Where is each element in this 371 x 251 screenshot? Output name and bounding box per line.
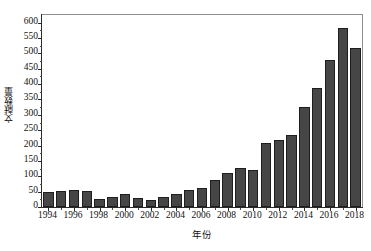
- bar: [94, 199, 104, 207]
- bar: [325, 60, 335, 207]
- x-axis-tick-label: 1998: [89, 211, 108, 221]
- y-axis-tick-mark: [38, 69, 42, 70]
- x-axis-tick-label: 2004: [166, 211, 185, 221]
- x-axis-tick-labels: 1994199619982000200220042006200820102012…: [41, 209, 363, 225]
- x-axis-tick-label: 2008: [217, 211, 236, 221]
- bar: [158, 197, 168, 207]
- bar: [197, 188, 207, 207]
- y-axis-tick-label: 100: [24, 171, 38, 181]
- bar: [120, 194, 130, 207]
- y-axis-tick-label: 300: [24, 109, 38, 119]
- bar: [69, 190, 79, 207]
- y-axis-tick-label: 550: [24, 32, 38, 42]
- y-axis-tick-label: 350: [24, 94, 38, 104]
- plot-area: [41, 14, 363, 208]
- y-axis-tick-mark: [38, 84, 42, 85]
- y-axis-tick-mark: [38, 146, 42, 147]
- bar: [235, 168, 245, 207]
- y-axis-minor-tick-mark: [40, 30, 43, 31]
- y-axis-minor-tick-mark: [40, 199, 43, 200]
- bar: [338, 28, 348, 207]
- y-axis-tick-mark: [38, 38, 42, 39]
- y-axis-tick-mark: [38, 192, 42, 193]
- y-axis-minor-tick-mark: [40, 61, 43, 62]
- bar: [274, 140, 284, 207]
- x-axis-tick-label: 2002: [140, 211, 159, 221]
- x-axis-title: 年份: [41, 227, 363, 241]
- bar: [222, 173, 232, 207]
- y-axis-tick-label: 250: [24, 124, 38, 134]
- x-axis-tick-label: 2006: [192, 211, 211, 221]
- bar: [299, 107, 309, 207]
- y-axis-tick-label: 500: [24, 48, 38, 58]
- y-axis-minor-tick-mark: [40, 169, 43, 170]
- bar: [184, 190, 194, 207]
- y-axis-minor-tick-mark: [40, 138, 43, 139]
- bar: [56, 191, 66, 207]
- y-axis-tick-label: 400: [24, 78, 38, 88]
- y-axis-minor-tick-mark: [40, 153, 43, 154]
- y-axis-tick-mark: [38, 23, 42, 24]
- bar: [350, 48, 360, 207]
- y-axis-tick-mark: [38, 53, 42, 54]
- bar: [171, 194, 181, 207]
- bar: [146, 200, 156, 207]
- x-axis-tick-label: 2012: [268, 211, 287, 221]
- bar: [210, 180, 220, 207]
- y-axis-tick-label: 600: [24, 17, 38, 27]
- x-axis-tick-label: 1994: [38, 211, 57, 221]
- y-axis-minor-tick-mark: [40, 123, 43, 124]
- bar: [312, 88, 322, 207]
- bar: [286, 135, 296, 207]
- y-axis-minor-tick-mark: [40, 184, 43, 185]
- x-axis-tick-label: 2014: [294, 211, 313, 221]
- x-axis-tick-label: 2010: [243, 211, 262, 221]
- bar: [133, 198, 143, 207]
- y-axis-minor-tick-mark: [40, 107, 43, 108]
- y-axis-tick-labels: 050100150200250300350400450500550600: [14, 14, 40, 208]
- y-axis-tick-mark: [38, 161, 42, 162]
- x-axis-tick-label: 1996: [64, 211, 83, 221]
- bar: [261, 143, 271, 207]
- y-axis-minor-tick-mark: [40, 92, 43, 93]
- bar: [248, 170, 258, 207]
- y-axis-minor-tick-mark: [40, 76, 43, 77]
- bar: [82, 191, 92, 207]
- bar-series: [42, 15, 362, 207]
- bar: [43, 192, 53, 207]
- y-axis-tick-mark: [38, 99, 42, 100]
- y-axis-tick-label: 200: [24, 140, 38, 150]
- y-axis-tick-mark: [38, 130, 42, 131]
- y-axis-tick-mark: [38, 207, 42, 208]
- bar: [107, 197, 117, 207]
- y-axis-minor-tick-mark: [40, 46, 43, 47]
- y-axis-title-text: 文献数量: [4, 87, 13, 123]
- y-axis-tick-mark: [38, 115, 42, 116]
- x-axis-tick-label: 2016: [320, 211, 339, 221]
- x-axis-tick-label: 2000: [115, 211, 134, 221]
- bar-chart: 文献数量 05010015020025030035040045050055060…: [0, 0, 371, 251]
- y-axis-tick-label: 50: [29, 186, 39, 196]
- y-axis-tick-label: 150: [24, 155, 38, 165]
- x-axis-tick-label: 2018: [345, 211, 364, 221]
- y-axis-tick-label: 450: [24, 63, 38, 73]
- y-axis-tick-mark: [38, 176, 42, 177]
